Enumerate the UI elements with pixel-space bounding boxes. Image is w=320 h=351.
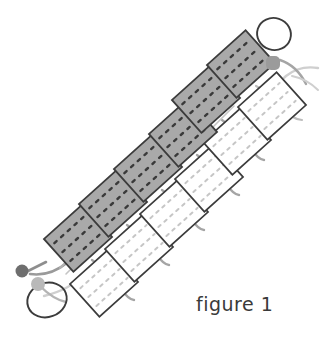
loop-ellipse-bottom-left [22, 277, 71, 323]
node-light-bottom-left [31, 277, 45, 291]
cable-stem-left [26, 262, 46, 272]
figure-container: figure 1 [0, 0, 320, 351]
node-mid-top-right [266, 56, 280, 70]
figure-caption: figure 1 [196, 293, 273, 315]
node-dark-bottom-left [16, 265, 29, 278]
